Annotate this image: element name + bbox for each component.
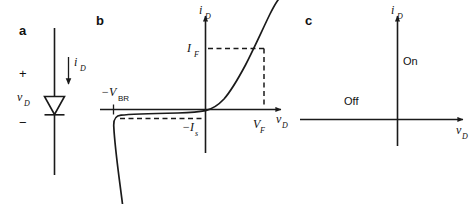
diode-figure: a i D + v D − b [0,0,471,204]
panel-c-group: c i D v D On Off [300,3,468,146]
panel-b-letter: b [96,13,104,28]
panel-a-letter: a [19,23,27,38]
panel-c-y-axis-sub: D [396,12,403,21]
panel-b-forward-voltage-sub: F [259,126,265,135]
panel-b-forward-current-sub: F [193,50,199,59]
panel-b-saturation-label: −I [182,120,195,134]
panel-a-minus-sign: − [19,115,27,130]
panel-a-current-label: i [74,55,77,69]
panel-b-forward-current-label: I [186,41,192,55]
panel-b-breakdown-label: −V [101,85,118,99]
panel-a-plus-sign: + [19,66,27,81]
panel-a-current-sub: D [79,64,86,73]
panel-b-saturation-sub: s [195,129,198,138]
panel-c-on-label: On [403,55,418,67]
panel-b-breakdown-sub: BR [118,94,129,103]
panel-b-group: b i D v D −V BR I F V F −I s [96,0,288,204]
panel-a-voltage-sub: D [23,99,30,108]
panel-b-y-axis-label: i [199,3,202,17]
panel-b-x-axis-sub: D [281,121,288,130]
panel-c-letter: c [305,13,312,28]
panel-c-x-axis-sub: D [461,132,468,141]
panel-a-group: a i D + v D − [17,23,86,175]
diode-triangle-icon [45,97,65,115]
panel-a-voltage-label: v [17,90,23,104]
panel-b-iv-curve [114,0,280,204]
panel-c-y-axis-label: i [391,3,394,17]
panel-b-y-axis-sub: D [204,12,211,21]
panel-c-off-label: Off [344,95,359,107]
figure-canvas: a i D + v D − b [0,0,471,204]
